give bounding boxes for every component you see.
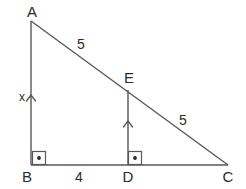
right-angle-marker-b [33,152,46,165]
geometry-diagram: A B C D E 5 5 4 x [0,0,246,189]
vertex-label-b: B [22,168,32,185]
segment-ac-hypotenuse [31,21,228,165]
vertex-label-d: D [123,168,134,185]
vertex-label-e: E [124,69,134,86]
right-angle-marker-d [129,152,142,165]
measure-label-bd: 4 [75,169,83,185]
measure-label-ae: 5 [77,36,85,52]
vertex-label-a: A [27,3,37,20]
measure-label-ec: 5 [179,112,187,128]
measure-label-ab-unknown: x [19,90,25,104]
vertex-label-c: C [223,168,234,185]
